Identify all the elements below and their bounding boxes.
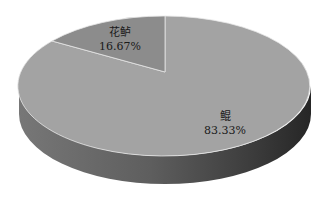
pie-chart: [0, 0, 328, 203]
label-small-percent: 16.67%: [98, 40, 142, 54]
label-small-slice: 花鲈 16.67%: [98, 26, 142, 54]
label-small-name: 花鲈: [98, 26, 142, 40]
label-large-name: 鲲: [200, 110, 250, 124]
label-large-slice: 鲲 83.33%: [200, 110, 250, 138]
label-large-percent: 83.33%: [200, 124, 250, 138]
